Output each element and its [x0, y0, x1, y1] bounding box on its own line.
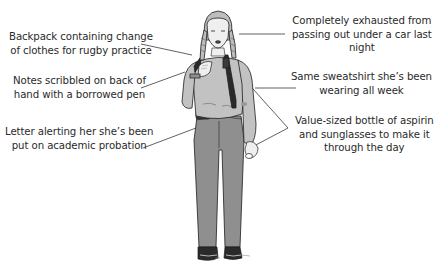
sneakers [198, 247, 250, 260]
callout-sweatshirt: Same sweatshirt she’s been wearing all w… [291, 70, 432, 97]
callout-aspirin-line-3: through the day [295, 141, 434, 155]
callout-letter-line-2: put on academic probation [5, 139, 153, 153]
callout-exhausted: Completely exhausted from passing out un… [292, 14, 432, 55]
callout-letter-line-1: Letter alerting her she’s been [5, 125, 153, 139]
callout-aspirin-line-2: and sunglasses to make it [295, 128, 434, 142]
callout-aspirin-line-1: Value-sized bottle of aspirin [295, 114, 434, 128]
leader-line-hand-notes [141, 72, 185, 88]
callout-hand-notes: Notes scribbled on back of hand with a b… [13, 74, 146, 101]
callout-exhausted-line-2: passing out under a car last [292, 28, 432, 42]
hand-with-aspirin-bottle [245, 142, 258, 159]
pants [194, 111, 244, 247]
callout-sweatshirt-line-1: Same sweatshirt she’s been [291, 70, 432, 84]
callout-letter: Letter alerting her she’s been put on ac… [5, 125, 153, 152]
callout-exhausted-line-3: night [292, 41, 432, 55]
callout-aspirin: Value-sized bottle of aspirin and sungla… [295, 114, 434, 155]
callout-backpack-line-2: of clothes for rugby practice [9, 44, 153, 58]
callout-backpack-line-1: Backpack containing change [9, 30, 153, 44]
callout-hand-notes-line-2: hand with a borrowed pen [13, 88, 146, 102]
callout-backpack: Backpack containing change of clothes fo… [9, 30, 153, 57]
callout-sweatshirt-line-2: wearing all week [291, 84, 432, 98]
neck [211, 48, 225, 56]
callout-exhausted-line-1: Completely exhausted from [292, 14, 432, 28]
callout-hand-notes-line-1: Notes scribbled on back of [13, 74, 146, 88]
